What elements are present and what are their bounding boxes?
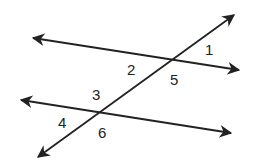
angle-label-6: 6 xyxy=(98,124,106,141)
angle-label-4: 4 xyxy=(58,114,66,131)
angle-label-5: 5 xyxy=(170,71,178,88)
angle-diagram: 1 2 3 4 5 6 xyxy=(0,0,253,168)
transversal-line xyxy=(38,15,234,157)
angle-label-1: 1 xyxy=(205,41,213,58)
lower-line xyxy=(21,100,231,133)
angle-label-3: 3 xyxy=(92,86,100,103)
angle-label-2: 2 xyxy=(127,61,135,78)
